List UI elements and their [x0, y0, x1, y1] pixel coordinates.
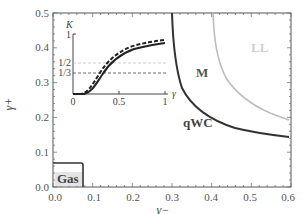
qwc-label: qWC: [183, 115, 213, 130]
x-tick-labels: 0.0 0.1 0.2 0.3 0.4 0.5 0.6: [48, 191, 295, 203]
phase-diagram: 0.0 0.1 0.2 0.3 0.4 0.5 0.0 0.1 0.2 0.3 …: [0, 0, 306, 214]
y-tick-label: 0.2: [35, 111, 49, 123]
x-tick-label: 0.1: [87, 191, 101, 203]
inset-x-label: γ: [172, 88, 177, 99]
y-tick-label: 0.5: [35, 7, 49, 19]
y-tick-label: 0.1: [35, 146, 49, 158]
inset-y-tick-third: 1/3: [58, 67, 71, 78]
y-tick-label: 0.4: [35, 41, 49, 53]
x-tick-label: 0.2: [126, 191, 140, 203]
inset-dashed-curve: [73, 40, 165, 94]
ll-label: LL: [251, 40, 269, 55]
inset-x-tick-half: 0.5: [113, 96, 126, 107]
inset-x-tick-1: 1: [163, 96, 168, 107]
gas-region: Gas: [53, 163, 83, 187]
x-tick-label: 0.3: [165, 191, 179, 203]
y-axis-label: γ+: [2, 98, 16, 111]
y-tick-labels: 0.0 0.1 0.2 0.3 0.4 0.5: [35, 7, 49, 193]
x-tick-label: 0.6: [281, 191, 295, 203]
x-tick-label: 0.5: [243, 191, 257, 203]
ll-boundary-line: [213, 13, 289, 120]
inset-chart: K 1 1/2 1/3 0 0.5 1 γ: [58, 19, 177, 107]
x-axis-label: γ−: [157, 203, 170, 214]
x-tick-label: 0.0: [48, 191, 62, 203]
gas-label: Gas: [57, 171, 79, 186]
inset-y-tick-1: 1: [66, 29, 71, 40]
y-tick-label: 0.3: [35, 76, 49, 88]
inset-x-tick-0: 0: [71, 96, 76, 107]
inset-solid-curve: [73, 43, 165, 94]
x-tick-label: 0.4: [204, 191, 218, 203]
m-label: M: [196, 65, 208, 80]
